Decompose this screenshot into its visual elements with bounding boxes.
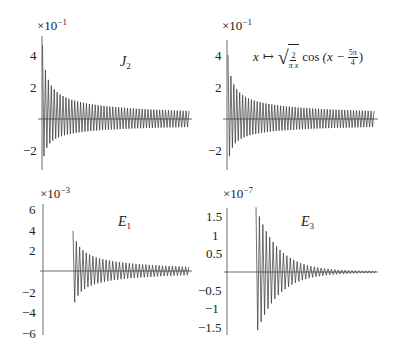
panel-e1: ×10−3 6 4 2 −2 −4 −6 E1 [22,185,192,341]
frac-denominator: 4 [351,58,355,67]
formula-var: x [253,49,259,65]
multiplier-label: ×10−7 [223,185,253,201]
y-tick-label: −1 [205,301,219,316]
signal-line [256,207,376,330]
series-label: J2 [120,54,131,71]
panel-e3: ×10−7 1.5 1 0.5 −0.5 −1 −1.5 E3 [198,185,378,335]
y-tick-label: 2 [29,243,36,258]
formula-label: x ↦ √ 2π x cos (x − 5π4 ) [253,44,363,70]
y-tick-label: −2 [208,143,222,158]
y-tick-label: 4 [30,48,37,63]
multiplier-label: ×10−1 [37,17,67,33]
y-tick-label: 0.5 [206,246,222,261]
multiplier-label: ×10−3 [40,185,70,201]
frac-numerator: 5π [348,48,358,58]
maps-to-symbol: ↦ [263,49,274,65]
y-tick-label: −0.5 [198,283,222,298]
panel-j2: ×10−1 4 2 −2 J2 [23,17,192,170]
y-tick-label: −1.5 [198,320,222,335]
frac-numerator: 2 [290,51,296,61]
y-tick-label: 6 [29,202,36,217]
y-tick-label: 2 [30,80,37,95]
y-tick-label: −2 [22,285,36,300]
series-label: E3 [300,214,315,231]
formula-close: ) [359,49,363,65]
sqrt-symbol: √ 2π x [278,44,300,70]
signal-line [73,231,189,302]
y-tick-label: 4 [29,223,36,238]
frac-denominator: π x [289,61,299,70]
y-tick-label: −6 [22,326,36,341]
y-tick-label: 4 [215,48,222,63]
y-tick-label: 2 [215,80,222,95]
y-tick-label: −4 [22,305,36,320]
panel-asymptotic: ×10−1 4 2 −2 [208,17,378,170]
signal-line [228,55,374,156]
y-tick-label: −2 [23,143,37,158]
y-tick-label: 1 [212,228,219,243]
formula-arg: (x − [323,49,345,65]
y-tick-label: 1.5 [206,209,222,224]
multiplier-label: ×10−1 [222,17,252,33]
series-label: E1 [117,214,131,231]
cos-function: cos [302,49,319,65]
signal-line [43,45,190,156]
